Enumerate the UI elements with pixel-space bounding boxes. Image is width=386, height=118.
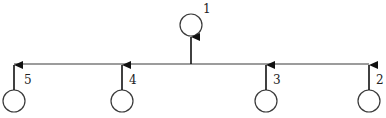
node-2: 2 bbox=[358, 65, 384, 112]
node-label: 3 bbox=[273, 73, 281, 87]
node-label: 1 bbox=[203, 2, 211, 16]
tree-diagram: 1 5432 bbox=[0, 0, 386, 118]
node-label: 4 bbox=[129, 73, 137, 87]
node-label: 2 bbox=[376, 73, 384, 87]
node-circle bbox=[3, 90, 25, 112]
node-1: 1 bbox=[180, 2, 211, 36]
node-label: 5 bbox=[24, 73, 32, 87]
node-circle bbox=[255, 90, 277, 112]
node-5: 5 bbox=[3, 65, 32, 112]
node-circle bbox=[180, 14, 202, 36]
node-circle bbox=[111, 90, 133, 112]
node-circle bbox=[358, 90, 380, 112]
node-3: 3 bbox=[255, 65, 281, 112]
node-4: 4 bbox=[111, 65, 137, 112]
